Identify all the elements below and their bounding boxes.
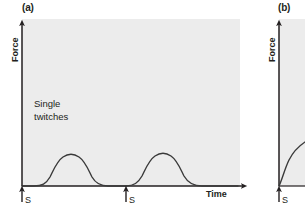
panel-b-graphics [258, 0, 305, 211]
panel-a: (a) Force Time [0, 0, 252, 211]
figure-root: (a) Force Time [0, 0, 305, 211]
panel-b-stimulus-label-1: S [282, 196, 288, 205]
panel-a-stimulus-label-2: S [129, 196, 135, 205]
panel-b-summation-curve [279, 142, 305, 186]
panel-a-stimulus-label-1: S [25, 196, 31, 205]
panel-a-annotation: Singletwitches [34, 98, 68, 123]
panel-a-annotation-line2: twitches [34, 111, 68, 122]
panel-a-annotation-line1: Single [34, 98, 60, 109]
panel-b: (b) Force S [258, 0, 305, 211]
panel-a-twitch-curve [22, 153, 238, 186]
